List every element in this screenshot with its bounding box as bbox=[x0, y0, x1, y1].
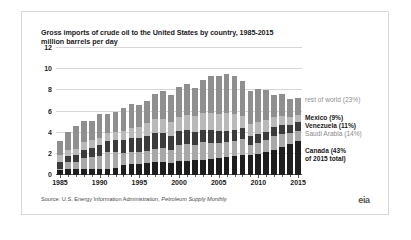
bar-segment bbox=[255, 143, 261, 154]
bar-segment bbox=[295, 98, 301, 115]
x-axis-tick bbox=[68, 175, 69, 177]
bar-segment bbox=[105, 114, 111, 133]
bar-column bbox=[200, 80, 206, 175]
bar-segment bbox=[73, 126, 79, 148]
bar-segment bbox=[287, 117, 293, 125]
legend-item-canada: Canada (43% bbox=[305, 147, 346, 155]
bar-segment bbox=[295, 122, 301, 130]
bar-column bbox=[255, 89, 261, 175]
page-title: Gross imports of crude oil to the United… bbox=[41, 28, 371, 37]
x-axis-tick bbox=[76, 175, 77, 177]
bar-segment bbox=[89, 157, 95, 169]
x-axis-tick bbox=[282, 175, 283, 177]
bar-segment bbox=[136, 105, 142, 127]
bar-column bbox=[248, 91, 254, 175]
bar-segment bbox=[208, 113, 214, 130]
bar-segment bbox=[97, 156, 103, 169]
legend-label-venezuela: Venezuela (11%) bbox=[305, 122, 356, 130]
bar-segment bbox=[232, 141, 238, 156]
x-axis-tick bbox=[171, 175, 172, 177]
bar-segment bbox=[136, 164, 142, 175]
bar-segment bbox=[105, 152, 111, 169]
x-axis-tick bbox=[298, 175, 299, 178]
legend-label-canada: Canada (43% bbox=[305, 147, 346, 155]
bar-segment bbox=[240, 128, 246, 139]
bar-segment bbox=[232, 76, 238, 114]
bar-segment bbox=[200, 113, 206, 130]
bar-segment bbox=[248, 124, 254, 136]
bar-segment bbox=[105, 133, 111, 141]
bar-segment bbox=[136, 127, 142, 138]
bar-segment bbox=[232, 156, 238, 175]
x-axis-tick bbox=[266, 175, 267, 177]
bar-segment bbox=[144, 136, 150, 151]
bar-segment bbox=[216, 143, 222, 158]
bar-column bbox=[105, 114, 111, 175]
legend-item-saudi-arabia: Saudi Arabia (14%) bbox=[305, 130, 362, 138]
bar-segment bbox=[129, 104, 135, 128]
bar-segment bbox=[184, 161, 190, 175]
plot-area: 024681012 bbox=[56, 48, 302, 175]
source-publication: Petroleum Supply Monthly bbox=[161, 196, 226, 202]
bar-segment bbox=[160, 91, 166, 119]
bar-segment bbox=[176, 131, 182, 146]
bar-segment bbox=[168, 136, 174, 150]
bar-column bbox=[224, 74, 230, 175]
bar-column bbox=[263, 90, 269, 175]
x-axis-tick-label: 1995 bbox=[132, 179, 148, 186]
bar-segment bbox=[248, 145, 254, 155]
bar-segment bbox=[129, 164, 135, 175]
bar-segment bbox=[200, 80, 206, 113]
bar-segment bbox=[192, 160, 198, 175]
bar-column bbox=[144, 101, 150, 175]
bar-segment bbox=[240, 155, 246, 175]
bar-segment bbox=[176, 87, 182, 117]
bar-segment bbox=[287, 144, 293, 175]
x-axis-tick bbox=[250, 175, 251, 177]
bar-segment bbox=[97, 114, 103, 138]
bar-column bbox=[113, 112, 119, 175]
eia-logo-text: eia bbox=[350, 195, 378, 205]
bar-segment bbox=[113, 112, 119, 132]
bar-segment bbox=[216, 114, 222, 131]
bar-segment bbox=[287, 133, 293, 145]
bar-segment bbox=[168, 163, 174, 175]
bar-segment bbox=[184, 130, 190, 145]
y-axis-tick-label: 0 bbox=[48, 171, 52, 178]
bar-segment bbox=[129, 152, 135, 165]
bar-segment bbox=[121, 165, 127, 175]
bar-column bbox=[271, 95, 277, 175]
bar-column bbox=[232, 76, 238, 175]
bar-segment bbox=[136, 138, 142, 152]
bar-segment bbox=[263, 120, 269, 132]
x-axis-tick bbox=[139, 175, 140, 178]
bar-segment bbox=[224, 131, 230, 143]
bar-column bbox=[57, 141, 63, 175]
bar-column bbox=[184, 84, 190, 175]
bar-segment bbox=[295, 141, 301, 175]
bar-segment bbox=[248, 91, 254, 124]
bar-segment bbox=[184, 144, 190, 161]
bar-column bbox=[65, 132, 71, 175]
legend-item-venezuela: Venezuela (11%) bbox=[305, 122, 356, 130]
legend-label-canada-line2: of 2015 total) bbox=[305, 155, 346, 163]
bar-segment bbox=[255, 89, 261, 122]
bar-segment bbox=[232, 114, 238, 130]
x-axis-tick bbox=[100, 175, 101, 178]
x-axis-tick bbox=[92, 175, 93, 177]
bar-segment bbox=[216, 131, 222, 144]
bar-segment bbox=[192, 132, 198, 146]
bar-segment bbox=[208, 130, 214, 144]
bar-segment bbox=[224, 157, 230, 175]
bar-segment bbox=[152, 119, 158, 133]
bar-segment bbox=[152, 162, 158, 175]
bar-segment bbox=[263, 132, 269, 140]
bar-segment bbox=[255, 134, 261, 144]
bars-layer bbox=[56, 48, 302, 175]
bar-segment bbox=[240, 139, 246, 155]
x-axis: 1985199019952000200520102015 bbox=[56, 175, 302, 191]
bar-segment bbox=[271, 95, 277, 117]
bar-column bbox=[216, 76, 222, 175]
legend-label-rest-of-world: rest of world (23%) bbox=[305, 96, 360, 104]
bar-segment bbox=[144, 151, 150, 164]
